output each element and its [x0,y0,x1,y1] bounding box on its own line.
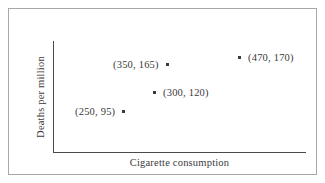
data-point-250-95: (250, 95) [75,106,125,117]
x-axis-line [53,152,306,153]
data-point-marker [153,91,156,94]
data-point-label: (300, 120) [163,87,209,98]
data-point-marker [122,110,125,113]
figure-border: Deaths per million Cigarette consumption… [8,8,317,175]
data-point-470-170: (470, 170) [238,52,294,63]
data-point-label: (470, 170) [248,52,294,63]
y-axis-title: Deaths per million [31,41,49,153]
data-point-label: (250, 95) [75,106,115,117]
data-point-marker [238,56,241,59]
data-point-marker [166,63,169,66]
y-axis-line [53,41,54,153]
data-point-label: (350, 165) [113,59,159,70]
x-axis-title: Cigarette consumption [53,157,306,168]
data-point-300-120: (300, 120) [153,87,209,98]
scatter-plot-figure: Deaths per million Cigarette consumption… [0,0,325,183]
data-point-350-165: (350, 165) [113,59,169,70]
